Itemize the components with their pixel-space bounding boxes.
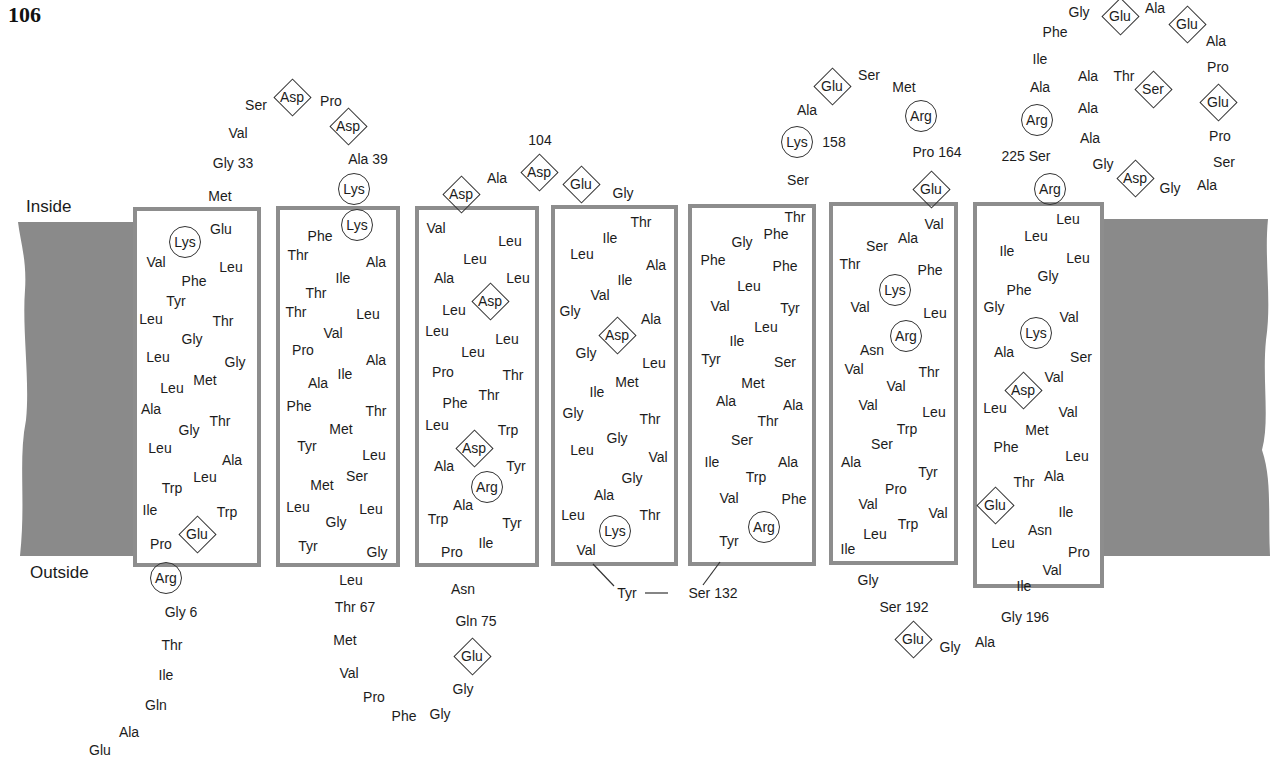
residue: Val <box>648 450 667 464</box>
residue: Ala <box>975 635 995 649</box>
residue: Gly 33 <box>213 156 253 170</box>
residue: Ile <box>338 367 353 381</box>
residue: Gly <box>576 346 597 360</box>
residue: Leu <box>356 307 379 321</box>
residue: Ala <box>1030 80 1050 94</box>
acidic-residue: Asp <box>454 428 494 468</box>
residue: Val <box>1059 310 1078 324</box>
residue: Gln 75 <box>455 614 496 628</box>
residue: Ala <box>434 271 454 285</box>
residue: Leu <box>737 279 760 293</box>
residue: Pro <box>432 365 454 379</box>
residue: Val <box>844 362 863 376</box>
residue: Pro <box>292 343 314 357</box>
residue: Asn <box>860 343 884 357</box>
residue: Met <box>741 376 764 390</box>
acidic-residue: Glu <box>561 164 601 204</box>
acidic-residue: Asp <box>328 106 368 146</box>
residue: Val <box>146 255 165 269</box>
residue: Phe <box>1007 283 1032 297</box>
residue: Tyr <box>617 586 636 600</box>
residue: Leu <box>442 303 465 317</box>
residue: Thr <box>288 248 309 262</box>
residue: Thr <box>631 215 652 229</box>
residue: Ser 192 <box>879 600 928 614</box>
acidic-residue: Asp <box>441 174 481 214</box>
residue: Phe <box>764 227 789 241</box>
acidic-residue: Glu <box>452 636 492 676</box>
residue: Ala <box>1044 469 1064 483</box>
residue: Thr <box>286 305 307 319</box>
residue: Ala <box>1078 69 1098 83</box>
residue: Val <box>1042 563 1061 577</box>
residue: Ser <box>871 437 893 451</box>
residue: Val <box>426 221 445 235</box>
residue: Leu <box>193 470 216 484</box>
residue: Leu <box>863 527 886 541</box>
residue: Ala <box>308 376 328 390</box>
residue: Leu <box>983 401 1006 415</box>
residue: Ile <box>479 536 494 550</box>
residue: Ile <box>1000 244 1015 258</box>
residue: Val <box>928 506 947 520</box>
residue: Tyr <box>918 465 937 479</box>
residue: Ile <box>730 334 745 348</box>
residue: Ala <box>1206 34 1226 48</box>
basic-residue: Lys <box>1020 317 1052 349</box>
residue: 104 <box>528 133 551 147</box>
residue: Val <box>323 326 342 340</box>
residue: Leu <box>754 320 777 334</box>
residue: Phe <box>308 229 333 243</box>
residue: Phe <box>287 399 312 413</box>
residue: Leu <box>1056 212 1079 226</box>
residue: Thr <box>1014 475 1035 489</box>
acidic-residue: Glu <box>975 485 1015 525</box>
residue: Ala <box>119 725 139 739</box>
residue: Ile <box>1033 52 1048 66</box>
residue: Ile <box>603 231 618 245</box>
residue: Ser <box>774 355 796 369</box>
residue: Thr <box>162 638 183 652</box>
residue: Ala <box>1078 101 1098 115</box>
residue: Gly <box>984 300 1005 314</box>
residue: Ser <box>346 469 368 483</box>
residue: Leu <box>362 448 385 462</box>
acidic-residue: Glu <box>1167 4 1207 44</box>
residue: Trp <box>162 481 182 495</box>
residue: Phe <box>443 396 468 410</box>
acidic-residue: Asp <box>1115 158 1155 198</box>
residue: Leu <box>570 443 593 457</box>
acidic-residue: Asp <box>272 77 312 117</box>
residue: Trp <box>898 517 918 531</box>
residue: Tyr <box>701 352 720 366</box>
residue: Ala <box>594 488 614 502</box>
residue: Ile <box>618 273 633 287</box>
residue: Ala <box>778 455 798 469</box>
residue: Gly <box>453 682 474 696</box>
acidic-residue: Glu <box>911 169 951 209</box>
residue: Ala <box>1080 131 1100 145</box>
residue: Ala <box>222 453 242 467</box>
residue: Gly <box>1160 181 1181 195</box>
acidic-residue: Glu <box>1100 0 1140 36</box>
acidic-residue: Asp <box>597 315 637 355</box>
residue: Ala <box>366 353 386 367</box>
residue: Val <box>924 217 943 231</box>
residue: Pro <box>1068 545 1090 559</box>
residue: Ala <box>453 498 473 512</box>
residue: Ala <box>434 459 454 473</box>
residue: Leu <box>642 356 665 370</box>
residue: Tyr <box>502 516 521 530</box>
residue: Thr <box>758 414 779 428</box>
residue: 225 Ser <box>1001 149 1050 163</box>
residue: Glu <box>89 743 111 757</box>
residue: Ala <box>641 312 661 326</box>
residue: Val <box>850 300 869 314</box>
residue: Ala <box>1197 178 1217 192</box>
residue: Leu <box>160 381 183 395</box>
basic-residue: Lys <box>599 515 631 547</box>
residue: Phe <box>701 253 726 267</box>
residue: Leu <box>139 312 162 326</box>
residue: Tyr <box>298 539 317 553</box>
residue: Pro <box>1209 129 1231 143</box>
